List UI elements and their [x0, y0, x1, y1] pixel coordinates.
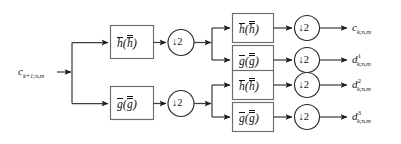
- filter-label-s2-row2-lowpass: h(h): [239, 78, 259, 93]
- filter-label-s2-row1-highpass: g(g): [239, 53, 259, 68]
- filter-label-s2-row0-lowpass: h(h): [239, 21, 259, 36]
- downsampler-label-s2-row3: ↓2: [299, 112, 310, 123]
- downsampler-label-s2-row1: ↓2: [299, 55, 310, 66]
- filter-label-s1-lowpass: h(h): [117, 35, 137, 50]
- input-signal-label: ck+1;n,m: [18, 66, 44, 77]
- downsampler-label-s2-row2: ↓2: [299, 80, 310, 91]
- paren-close: ): [133, 36, 137, 50]
- down-factor: 2: [304, 79, 309, 90]
- paren-close: ): [255, 22, 259, 36]
- paren-close: ): [255, 79, 259, 93]
- down-factor: 2: [304, 111, 309, 122]
- input-signal-subscript: k+1;n,m: [23, 72, 44, 79]
- output-label-d2: d2k;n,m: [352, 79, 371, 90]
- down-factor: 2: [177, 97, 182, 108]
- paren-close: ): [255, 111, 259, 125]
- output-d3-superscript: 3: [358, 109, 361, 116]
- output-label-d3: d3k;n,m: [352, 111, 371, 122]
- diagram-canvas: ck+1;n,m h(h) g(g) ↓2 ↓2 h(h) g(g) h(h) …: [0, 0, 401, 144]
- paren-close: ): [133, 97, 137, 111]
- down-factor: 2: [304, 54, 309, 65]
- down-factor: 2: [177, 36, 182, 47]
- downsampler-label-s1-lowpass: ↓2: [172, 37, 183, 48]
- filter-label-s2-row3-highpass: g(g): [239, 110, 259, 125]
- diagram-wires-layer: [0, 0, 401, 144]
- output-label-d1: d1k;n,m: [352, 54, 371, 65]
- output-c-subscript: k;n,m: [357, 28, 371, 35]
- down-factor: 2: [304, 22, 309, 33]
- output-d1-subscript: k;n,m: [357, 60, 371, 67]
- output-label-c: ck;n,m: [352, 22, 371, 33]
- downsampler-label-s2-row0: ↓2: [299, 23, 310, 34]
- filter-label-s1-highpass: g(g): [117, 96, 137, 111]
- output-d1-superscript: 1: [358, 52, 361, 59]
- downsampler-label-s1-highpass: ↓2: [172, 98, 183, 109]
- output-d2-subscript: k;n,m: [357, 85, 371, 92]
- output-d2-superscript: 2: [358, 77, 361, 84]
- paren-close: ): [255, 54, 259, 68]
- output-d3-subscript: k;n,m: [357, 117, 371, 124]
